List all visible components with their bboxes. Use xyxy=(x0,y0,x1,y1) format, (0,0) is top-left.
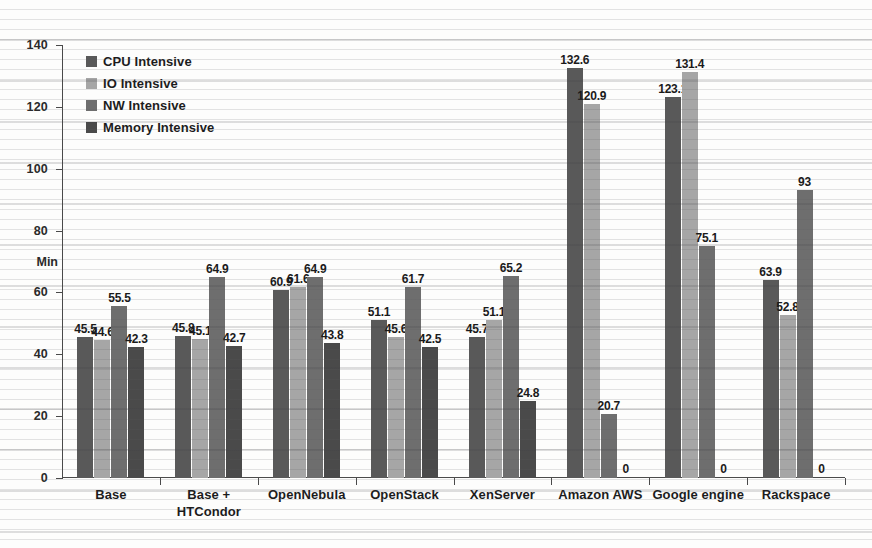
bar-value-label: 51.1 xyxy=(368,305,391,319)
legend-label: IO Intensive xyxy=(103,76,178,91)
bar-value-label: 93 xyxy=(798,175,811,189)
x-axis-category-line: Base + xyxy=(160,486,258,503)
y-axis-tick-label: 0 xyxy=(8,471,48,485)
bar-value-label: 75.1 xyxy=(695,231,718,245)
x-axis-category-line: Google engine xyxy=(649,486,747,503)
y-axis-tick-mark xyxy=(56,478,63,479)
x-axis-category-label: Base xyxy=(62,486,160,503)
x-axis-tick-mark xyxy=(649,478,650,485)
x-axis-tick-mark xyxy=(454,478,455,485)
y-axis-tick-label: 80 xyxy=(8,224,48,238)
bar: 61.7 xyxy=(405,287,421,478)
bar: 20.7 xyxy=(601,414,617,478)
bar: 120.9 xyxy=(584,104,600,478)
bar: 42.3 xyxy=(128,347,144,478)
x-axis-category-label: Base +HTCondor xyxy=(160,486,258,520)
bar-group: 123.1131.475.10 xyxy=(649,45,747,478)
bar-value-label: 120.9 xyxy=(577,89,606,103)
x-axis-category-label: OpenNebula xyxy=(258,486,356,503)
bar: 60.9 xyxy=(273,290,289,478)
bar-value-label: 51.1 xyxy=(483,305,506,319)
bar-value-label: 52.8 xyxy=(776,300,799,314)
x-axis-category-label: OpenStack xyxy=(356,486,454,503)
bar: 45.5 xyxy=(77,337,93,478)
bar-value-label: 44.6 xyxy=(91,325,114,339)
y-axis-title: Min xyxy=(16,255,58,269)
bar: 42.7 xyxy=(226,346,242,478)
bar: 42.5 xyxy=(422,347,438,478)
bar: 51.1 xyxy=(371,320,387,478)
legend-item-nw-intensive: NW Intensive xyxy=(86,94,214,116)
bar-value-label: 24.8 xyxy=(517,386,540,400)
bar: 132.6 xyxy=(567,68,583,478)
bar: 93 xyxy=(797,190,813,478)
x-axis-category-line: OpenStack xyxy=(356,486,454,503)
bar-value-label: 42.3 xyxy=(125,332,148,346)
bar: 45.7 xyxy=(469,337,485,478)
legend-label: CPU Intensive xyxy=(103,54,192,69)
bar-value-label: 42.5 xyxy=(419,332,442,346)
x-axis-tick-mark xyxy=(551,478,552,485)
x-axis-tick-mark xyxy=(356,478,357,485)
x-axis-tick-mark xyxy=(258,478,259,485)
bar: 52.8 xyxy=(780,315,796,478)
bar-value-label: 64.9 xyxy=(304,262,327,276)
bar-value-label: 0 xyxy=(818,462,825,476)
x-axis-category-label: XenServer xyxy=(454,486,552,503)
bar-value-label: 20.7 xyxy=(598,399,621,413)
bar: 45.1 xyxy=(192,339,208,478)
y-axis-tick-label: 20 xyxy=(8,409,48,423)
y-axis-tick-label: 100 xyxy=(8,162,48,176)
x-axis-category-line: Rackspace xyxy=(747,486,845,503)
x-axis-tick-mark xyxy=(747,478,748,485)
bar: 123.1 xyxy=(665,97,681,478)
bar-group: 51.145.661.742.5 xyxy=(356,45,454,478)
bar: 65.2 xyxy=(503,276,519,478)
y-axis-tick-label: 120 xyxy=(8,100,48,114)
bar: 43.8 xyxy=(324,343,340,478)
x-axis-tick-mark xyxy=(845,478,846,485)
bar-value-label: 45.1 xyxy=(189,324,212,338)
legend-swatch-icon xyxy=(86,122,97,133)
bar-group: 63.952.8930 xyxy=(747,45,845,478)
bar-value-label: 65.2 xyxy=(500,261,523,275)
x-axis-category-line: OpenNebula xyxy=(258,486,356,503)
bar: 64.9 xyxy=(209,277,225,478)
bar-value-label: 55.5 xyxy=(108,291,131,305)
legend-swatch-icon xyxy=(86,100,97,111)
legend-swatch-icon xyxy=(86,56,97,67)
bar-group: 45.751.165.224.8 xyxy=(454,45,552,478)
x-axis-category-line: HTCondor xyxy=(160,503,258,520)
bar-value-label: 132.6 xyxy=(560,53,589,67)
chart-legend: CPU IntensiveIO IntensiveNW IntensiveMem… xyxy=(86,50,214,138)
bar: 61.6 xyxy=(290,287,306,478)
bar: 51.1 xyxy=(486,320,502,478)
bar-value-label: 64.9 xyxy=(206,262,229,276)
x-axis-tick-mark xyxy=(160,478,161,485)
bar-value-label: 45.7 xyxy=(466,322,489,336)
bar-value-label: 43.8 xyxy=(321,328,344,342)
bar-value-label: 45.6 xyxy=(385,322,408,336)
bar-value-label: 63.9 xyxy=(759,265,782,279)
legend-swatch-icon xyxy=(86,78,97,89)
y-axis: 020406080100120140Min xyxy=(0,0,62,548)
bar: 75.1 xyxy=(699,246,715,478)
legend-item-io-intensive: IO Intensive xyxy=(86,72,214,94)
bar-value-label: 61.7 xyxy=(402,272,425,286)
y-axis-tick-label: 60 xyxy=(8,285,48,299)
legend-label: NW Intensive xyxy=(103,98,186,113)
legend-item-memory-intensive: Memory Intensive xyxy=(86,116,214,138)
x-axis-category-line: Amazon AWS xyxy=(551,486,649,503)
legend-label: Memory Intensive xyxy=(103,120,214,135)
legend-item-cpu-intensive: CPU Intensive xyxy=(86,50,214,72)
x-axis-category-line: XenServer xyxy=(454,486,552,503)
bar-value-label: 42.7 xyxy=(223,331,246,345)
bar-group: 132.6120.920.70 xyxy=(551,45,649,478)
y-axis-tick-label: 40 xyxy=(8,347,48,361)
x-axis-category-label: Amazon AWS xyxy=(551,486,649,503)
bar: 45.6 xyxy=(388,337,404,478)
x-axis-labels: BaseBase +HTCondorOpenNebulaOpenStackXen… xyxy=(62,486,845,536)
bar-value-label: 131.4 xyxy=(675,57,704,71)
bar-value-label: 0 xyxy=(622,462,629,476)
bar: 45.8 xyxy=(175,336,191,478)
